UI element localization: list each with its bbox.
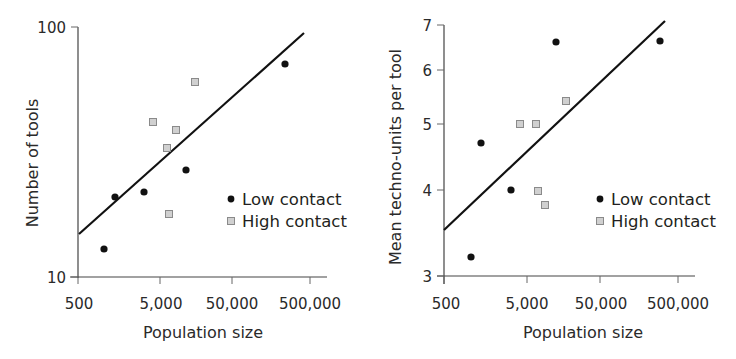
y-tick-label: 10 [47, 269, 66, 287]
legend-high-contact-marker [597, 218, 604, 225]
legend: Low contact High contact [597, 190, 717, 231]
data-point [182, 166, 189, 173]
x-tick-label: 50,000 [575, 295, 628, 313]
y-axis-title: Number of tools [23, 99, 42, 228]
data-point [192, 79, 199, 86]
legend-high-contact-label: High contact [611, 212, 716, 231]
data-point [563, 98, 570, 105]
data-point [517, 121, 524, 128]
legend-low-contact-marker [228, 196, 235, 203]
y-tick-label: 5 [422, 116, 432, 134]
data-point [173, 127, 180, 134]
data-point [552, 38, 559, 45]
data-point [656, 37, 663, 44]
chart-techno-units: 7 6 5 4 3 500 5,000 50,000 500,000 Popul… [386, 17, 716, 342]
data-point [140, 188, 147, 195]
data-point [100, 245, 107, 252]
legend-low-contact-marker [597, 196, 604, 203]
y-tick-label: 4 [422, 182, 432, 200]
x-tick-label: 500,000 [279, 295, 341, 313]
y-tick-label: 7 [422, 17, 432, 35]
data-point [164, 145, 171, 152]
x-tick-label: 50,000 [206, 295, 259, 313]
legend: Low contact High contact [228, 190, 348, 231]
legend-low-contact-label: Low contact [611, 190, 711, 209]
x-tick-label: 500 [65, 295, 94, 313]
chart-number-of-tools: 100 10 500 5,000 50,000 500,000 Populati… [23, 19, 347, 342]
data-point [535, 188, 542, 195]
data-point [281, 60, 288, 67]
legend-high-contact-label: High contact [242, 212, 347, 231]
data-point [533, 121, 540, 128]
legend-high-contact-marker [228, 218, 235, 225]
data-point [467, 253, 474, 260]
legend-low-contact-label: Low contact [242, 190, 342, 209]
data-point [542, 202, 549, 209]
y-tick-label: 100 [37, 19, 66, 37]
data-point [150, 119, 157, 126]
x-tick-label: 5,000 [140, 295, 183, 313]
data-point [477, 139, 484, 146]
y-tick-label: 6 [422, 62, 432, 80]
y-axis-title: Mean techno-units per tool [386, 49, 405, 265]
y-tick-label: 3 [422, 268, 432, 286]
x-tick-label: 500 [432, 295, 461, 313]
data-point [111, 193, 118, 200]
data-point [507, 186, 514, 193]
figure: 100 10 500 5,000 50,000 500,000 Populati… [0, 0, 736, 359]
x-axis-title: Population size [523, 323, 643, 342]
x-axis-title: Population size [143, 323, 263, 342]
x-tick-label: 5,000 [506, 295, 549, 313]
x-tick-label: 500,000 [647, 295, 709, 313]
data-point [166, 211, 173, 218]
